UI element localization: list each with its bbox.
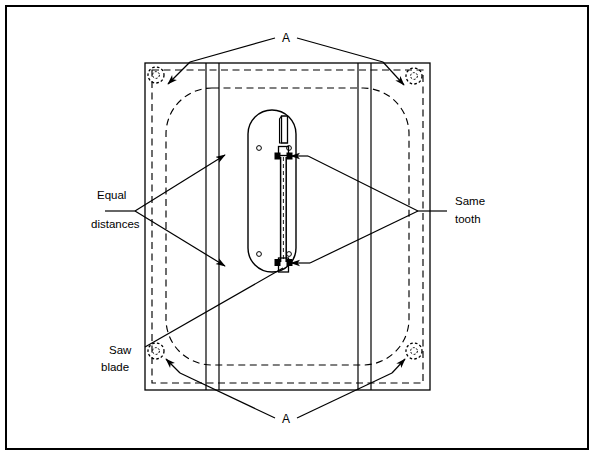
leader-equal-distances	[105, 155, 225, 266]
leader-a-top	[168, 38, 404, 85]
saw-shoe-stadium	[248, 110, 296, 272]
pivot-hole-bottom-right	[287, 252, 292, 257]
blade-guard-slot	[282, 116, 288, 143]
label-saw-blade-line2: blade	[101, 361, 129, 373]
label-equal-distances-line1: Equal	[97, 189, 126, 201]
label-a-top: A	[282, 31, 290, 45]
pivot-hole-top-left	[257, 146, 262, 151]
label-a-bottom: A	[282, 412, 290, 426]
screw-bottom-left	[148, 343, 164, 359]
screw-bottom-right	[406, 343, 422, 359]
pivot-hole-bottom-left	[257, 252, 262, 257]
label-same-tooth-line1: Same	[455, 195, 485, 207]
screw-top-right	[406, 68, 422, 84]
panel-outline	[145, 63, 430, 390]
leader-a-bottom	[166, 359, 405, 418]
screw-top-left	[148, 67, 164, 83]
diagram-canvas: A A Equal distances Same tooth	[0, 0, 594, 455]
label-saw-blade-line1: Saw	[109, 344, 132, 356]
label-same-tooth-line2: tooth	[455, 213, 481, 225]
technical-diagram-figure: A A Equal distances Same tooth	[0, 0, 594, 455]
label-equal-distances-line2: distances	[91, 218, 140, 230]
leader-same-tooth	[291, 156, 447, 263]
